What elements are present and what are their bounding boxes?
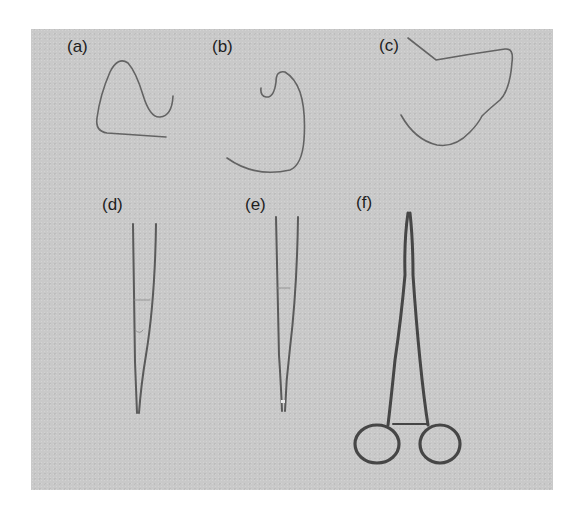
label-b: (b) xyxy=(212,38,233,55)
forceps-d xyxy=(133,224,156,413)
needle-holder-f xyxy=(355,213,460,463)
label-e: (e) xyxy=(245,196,266,213)
label-a: (a) xyxy=(67,38,88,55)
figure-artwork xyxy=(0,0,581,512)
wire-b xyxy=(227,72,305,173)
wire-c xyxy=(401,38,512,145)
label-f: (f) xyxy=(356,194,372,211)
label-d: (d) xyxy=(102,196,123,213)
label-c: (c) xyxy=(379,37,399,54)
wire-a xyxy=(97,61,173,137)
forceps-e xyxy=(276,217,298,411)
